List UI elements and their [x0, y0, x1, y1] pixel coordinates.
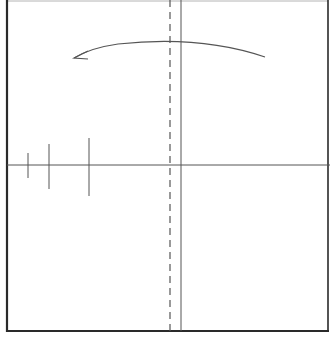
diagram-canvas	[0, 0, 330, 352]
diagram-svg	[0, 0, 330, 352]
tick-marks-group	[28, 138, 89, 196]
arrowhead-icon	[74, 51, 88, 59]
